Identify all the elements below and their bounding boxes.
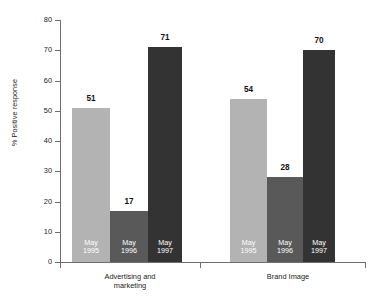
y-axis-tick-label: 20 [28,198,52,205]
y-axis-tick-label: 40 [28,137,52,144]
bar-value-label: 54 [229,85,269,94]
bar-inner-label: May 1997 [148,239,182,256]
x-axis-tick [365,262,366,268]
bar-inner-label: May 1995 [230,239,267,256]
bar-value-label: 51 [71,94,111,103]
y-axis-title: % Positive response [10,53,19,173]
bar[interactable]: May 1995 [230,99,267,262]
x-axis-line [60,262,366,263]
y-axis-tick-label: 60 [28,77,52,84]
bar-chart: % Positive response 01020304050607080 Ma… [0,0,380,302]
plot-area: May 199551May 199617May 199771May 199554… [60,20,366,262]
x-axis-tick [200,262,201,268]
bar[interactable]: May 1996 [110,211,148,262]
bar[interactable]: May 1996 [267,177,303,262]
bar-inner-label: May 1996 [267,239,303,256]
bar[interactable]: May 1997 [303,50,335,262]
group-label: Advertising and marketing [55,272,205,291]
bar[interactable]: May 1995 [72,108,110,262]
group-label: Brand Image [213,272,363,281]
y-axis-tick-label: 10 [28,228,52,235]
bar-value-label: 71 [145,33,185,42]
bar-value-label: 70 [299,36,339,45]
bar-inner-label: May 1997 [303,239,335,256]
x-axis-tick [60,262,61,268]
bar-inner-label: May 1995 [72,239,110,256]
bar-inner-label: May 1996 [110,239,148,256]
bar[interactable]: May 1997 [148,47,182,262]
y-axis-tick-label: 80 [28,16,52,23]
bar-value-label: 17 [109,197,149,206]
y-axis-tick-label: 0 [28,258,52,265]
y-axis-tick-label: 70 [28,46,52,53]
bar-value-label: 28 [265,163,305,172]
y-axis-tick-label: 50 [28,107,52,114]
y-axis-tick-label: 30 [28,167,52,174]
